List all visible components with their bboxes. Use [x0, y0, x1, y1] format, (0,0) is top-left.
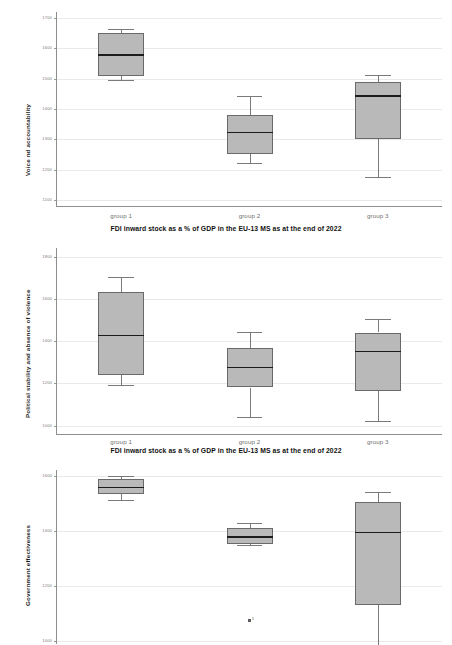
- y-tick-label: 1400: [42, 107, 52, 111]
- plot-area: [57, 12, 442, 206]
- box-iqr: [355, 333, 401, 391]
- y-tick-label: 1100: [43, 198, 52, 202]
- x-axis-title: FDI inward stock as a % of GDP in the EU…: [0, 225, 452, 232]
- x-category-label-1: group 1: [110, 438, 132, 445]
- whisker-upper: [378, 319, 379, 333]
- chart-panel-government-effectiveness: Government effectiveness 1 1000120014001…: [0, 458, 452, 632]
- whisker-cap-lower: [365, 421, 391, 422]
- box-iqr: [355, 502, 401, 606]
- y-tick-label: 1400: [42, 339, 52, 343]
- x-category-label-3: group 3: [367, 438, 389, 445]
- y-tick-label: 1600: [42, 297, 52, 301]
- boxplot-3: [57, 248, 442, 434]
- box-iqr: [355, 82, 401, 139]
- plot-area: [57, 248, 442, 434]
- x-axis-line: [56, 206, 442, 207]
- median-line: [355, 95, 401, 97]
- x-axis-title: FDI inward stock as a % of GDP in the EU…: [0, 447, 452, 454]
- y-tick-label: 1200: [42, 584, 52, 588]
- y-tick-label: 1800: [42, 254, 52, 258]
- y-tick-label: 1000: [42, 423, 52, 427]
- y-tick-label: 1700: [42, 16, 52, 20]
- whisker-upper: [378, 492, 379, 502]
- median-line: [355, 532, 401, 534]
- y-tick-label: 1300: [42, 137, 52, 141]
- boxplot-3: [57, 12, 442, 206]
- whisker-cap-upper: [365, 319, 391, 320]
- whisker-cap-upper: [365, 75, 391, 76]
- chart-panel-political-stability: Political stability and absence of viole…: [0, 236, 452, 458]
- whisker-lower: [378, 605, 379, 645]
- boxplot-3: [57, 470, 442, 644]
- y-tick-label: 1500: [42, 77, 52, 81]
- whisker-lower: [378, 139, 379, 177]
- y-axis-title: Government effectiveness: [24, 525, 31, 606]
- whisker-cap-lower: [365, 177, 391, 178]
- whisker-cap-upper: [365, 492, 391, 493]
- x-category-label-3: group 3: [367, 212, 389, 219]
- x-category-label-2: group 2: [239, 212, 261, 219]
- y-axis-title: Political stability and absence of viole…: [24, 289, 31, 418]
- y-tick-label: 1200: [42, 167, 52, 171]
- chart-panel-voice-and-accountability: Voice nd accountability FDI inward stock…: [0, 0, 452, 236]
- y-tick-label: 1200: [42, 381, 52, 385]
- x-category-label-1: group 1: [110, 212, 132, 219]
- x-category-label-2: group 2: [239, 438, 261, 445]
- whisker-lower: [378, 391, 379, 422]
- x-axis-line: [56, 434, 442, 435]
- y-tick-label: 1600: [42, 473, 52, 477]
- plot-area: 1: [57, 470, 442, 644]
- y-tick-label: 1400: [42, 529, 52, 533]
- y-axis-title: Voice nd accountability: [24, 104, 31, 176]
- whisker-upper: [378, 75, 379, 82]
- y-tick-label: 1000: [42, 639, 52, 643]
- y-tick-label: 1600: [42, 46, 52, 50]
- median-line: [355, 351, 401, 353]
